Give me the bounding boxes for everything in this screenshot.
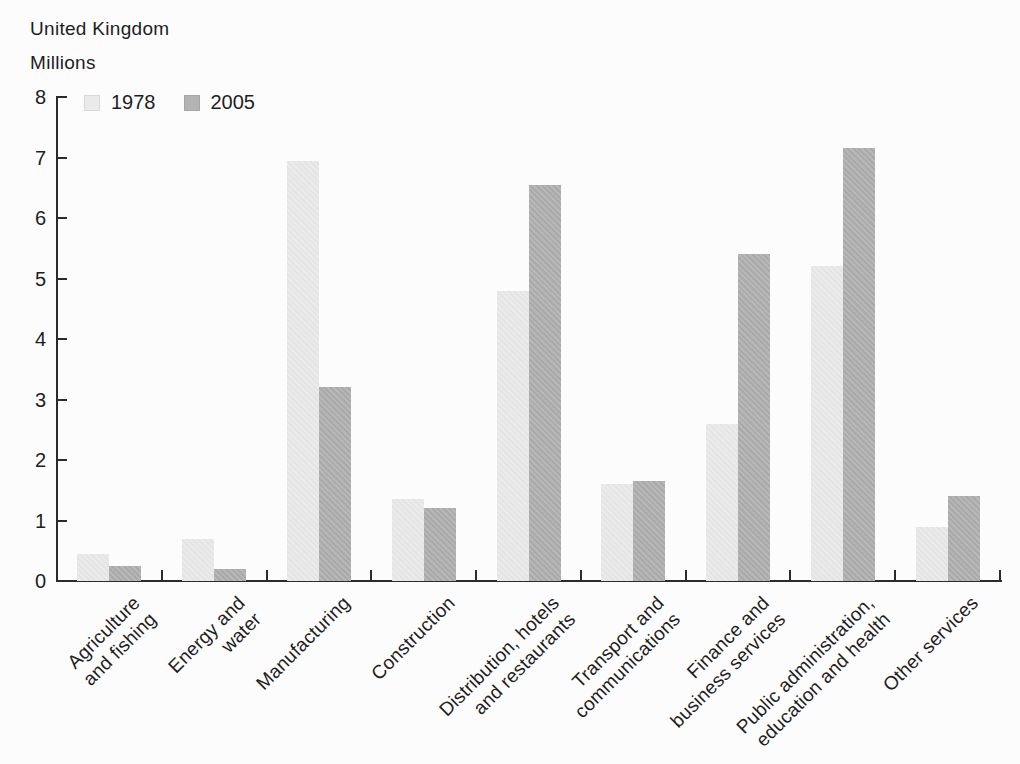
x-tick (161, 570, 163, 580)
x-tick (894, 570, 896, 580)
y-tick (58, 278, 67, 280)
bar-2005-1 (214, 569, 246, 581)
bar-2005-8 (948, 496, 980, 581)
x-tick (370, 570, 372, 580)
legend-swatch-2005 (184, 95, 200, 111)
bar-1978-8 (916, 527, 948, 581)
legend: 1978 2005 (84, 91, 255, 114)
bar-1978-4 (497, 291, 529, 581)
chart-page: United Kingdom Millions 012345678 Agricu… (0, 0, 1020, 764)
y-tick (58, 157, 67, 159)
category-label: Energy andwater (164, 592, 266, 694)
legend-swatch-1978 (84, 95, 100, 111)
x-tick (685, 570, 687, 580)
bar-2005-3 (424, 508, 456, 581)
x-tick (999, 570, 1001, 580)
y-tick (58, 459, 67, 461)
bar-1978-3 (392, 499, 424, 581)
bar-2005-6 (738, 254, 770, 581)
bar-1978-7 (811, 266, 843, 581)
bar-2005-0 (109, 566, 141, 581)
chart-unit-label: Millions (30, 52, 96, 74)
y-tick-label: 1 (18, 510, 46, 532)
chart-region-title: United Kingdom (30, 18, 169, 40)
bar-2005-7 (843, 148, 875, 581)
x-tick (580, 570, 582, 580)
y-tick (58, 217, 67, 219)
bar-2005-5 (633, 481, 665, 581)
bar-1978-0 (77, 554, 109, 581)
category-label: Distribution, hotelsand restaurants (435, 592, 580, 737)
x-tick (266, 570, 268, 580)
bar-2005-2 (319, 387, 351, 581)
category-label: Construction (367, 592, 460, 685)
y-tick-label: 8 (18, 86, 46, 108)
bar-1978-1 (182, 539, 214, 581)
category-label: Agricultureand fishing (63, 592, 161, 690)
y-tick (58, 338, 67, 340)
y-tick (58, 96, 67, 98)
y-tick (58, 520, 67, 522)
x-tick (789, 570, 791, 580)
y-tick (58, 399, 67, 401)
y-tick-label: 5 (18, 268, 46, 290)
y-tick-label: 7 (18, 147, 46, 169)
bar-1978-2 (287, 161, 319, 581)
bar-1978-6 (706, 424, 738, 581)
y-tick-label: 3 (18, 389, 46, 411)
y-tick-label: 6 (18, 207, 46, 229)
y-tick-label: 2 (18, 449, 46, 471)
x-tick (475, 570, 477, 580)
category-label: Manufacturing (252, 592, 355, 695)
y-tick-label: 4 (18, 328, 46, 350)
bar-1978-5 (601, 484, 633, 581)
legend-label-1978: 1978 (111, 91, 156, 114)
legend-label-2005: 2005 (211, 91, 256, 114)
bar-2005-4 (529, 185, 561, 581)
y-tick-label: 0 (18, 570, 46, 592)
category-label: Other services (879, 592, 983, 696)
